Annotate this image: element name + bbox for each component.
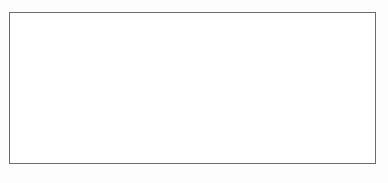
figure-caption-faint <box>0 0 388 9</box>
plot-area <box>9 12 376 164</box>
horizontal-gridlines <box>10 13 375 163</box>
node-markers <box>10 13 375 163</box>
figure-container <box>0 0 388 183</box>
series-layer <box>10 13 375 163</box>
